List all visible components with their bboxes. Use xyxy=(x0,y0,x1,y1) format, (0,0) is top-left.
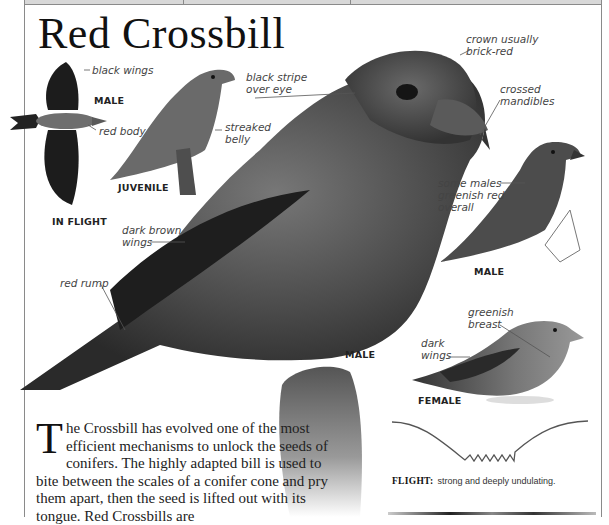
label-black-wings: black wings xyxy=(92,64,154,76)
label-black-stripe-1: black stripe xyxy=(246,71,307,83)
label-crown-1: crown usually xyxy=(466,33,538,45)
label-some-males-2: greenish red xyxy=(438,189,504,201)
label-black-stripe-2: over eye xyxy=(246,83,292,95)
caption-in-flight: IN FLIGHT xyxy=(52,216,107,227)
label-crossed-2: mandibles xyxy=(500,95,554,107)
flight-pattern-diagram xyxy=(392,421,588,461)
label-greenish-2: breast xyxy=(468,318,501,330)
caption-male-in-flight: MALE xyxy=(94,95,124,106)
flight-text: strong and deeply undulating. xyxy=(438,476,556,486)
caption-male-right: MALE xyxy=(474,266,504,277)
label-dark-brown-2: wings xyxy=(122,236,152,248)
description-text: he Crossbill has evolved one of the most… xyxy=(36,420,328,524)
label-red-body: red body xyxy=(99,125,146,137)
species-description: The Crossbill has evolved one of the mos… xyxy=(36,420,336,525)
in-flight-bird xyxy=(10,62,107,205)
label-crown-2: brick-red xyxy=(466,45,513,57)
next-image-edge xyxy=(388,512,596,515)
label-dark-wings-1: dark xyxy=(421,337,445,349)
label-dark-brown-1: dark brown xyxy=(122,224,181,236)
label-streaked-belly-1: streaked xyxy=(225,121,271,133)
female-bird xyxy=(412,321,584,404)
caption-female: FEMALE xyxy=(418,395,462,406)
label-dark-wings-2: wings xyxy=(421,349,451,361)
label-some-males-1: some males xyxy=(438,177,501,189)
label-crossed-1: crossed xyxy=(500,83,541,95)
drop-cap: T xyxy=(36,422,63,456)
label-some-males-3: overall xyxy=(438,201,474,213)
flight-caption: FLIGHT:strong and deeply undulating. xyxy=(392,476,556,486)
flight-label: FLIGHT: xyxy=(392,476,434,486)
label-red-rump: red rump xyxy=(60,277,109,289)
label-greenish-1: greenish xyxy=(468,306,514,318)
caption-male-main: MALE xyxy=(345,349,375,360)
caption-juvenile: JUVENILE xyxy=(118,182,169,193)
label-streaked-belly-2: belly xyxy=(225,133,250,145)
